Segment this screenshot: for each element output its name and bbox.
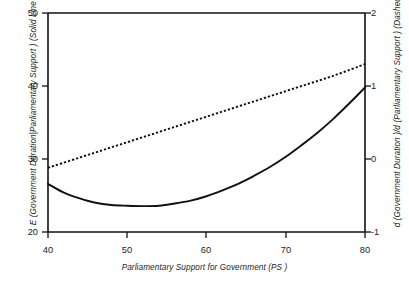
y-left-tick-20: 20 bbox=[4, 227, 38, 237]
y-left-tickmarks bbox=[42, 13, 48, 232]
axis-frame bbox=[48, 13, 365, 232]
x-axis-title: Parliamentary Support for Government (PS… bbox=[0, 263, 409, 272]
y-axis-left-title: E (Government Duration|Parliamentary Sup… bbox=[29, 5, 40, 225]
x-tick-40: 40 bbox=[28, 245, 68, 255]
x-tick-70: 70 bbox=[266, 245, 306, 255]
chart-figure: 50 40 30 20 2 1 0 -1 40 50 60 70 80 E (G… bbox=[0, 0, 409, 281]
series-line-expected-duration bbox=[48, 87, 365, 206]
x-tick-50: 50 bbox=[107, 245, 147, 255]
x-tick-60: 60 bbox=[186, 245, 226, 255]
y-axis-right-title: d (Government Duration )/d (Parliamentar… bbox=[393, 7, 404, 227]
y-right-tickmarks bbox=[365, 13, 371, 232]
plot-area bbox=[0, 0, 409, 281]
x-tickmarks bbox=[48, 232, 365, 238]
x-tick-80: 80 bbox=[345, 245, 385, 255]
series-line-marginal-effect bbox=[48, 64, 365, 168]
y-right-tick-neg1: -1 bbox=[371, 227, 405, 237]
